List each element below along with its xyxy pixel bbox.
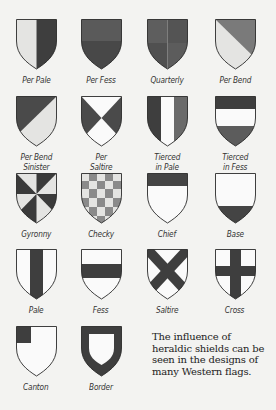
label-line: Canton (23, 383, 48, 392)
label-line: Per Fess (86, 76, 115, 85)
label-line: Per (90, 153, 112, 163)
shield-label: Checky (88, 230, 114, 240)
shield-label: Fess (93, 306, 109, 316)
shield-base-cell: Base (205, 173, 265, 240)
label-line: in Fess (222, 163, 248, 173)
note-line: seen in the designs of (152, 354, 270, 366)
shield-border-cell: Border (71, 326, 131, 393)
label-line: Saltire (156, 306, 178, 315)
label-line: Pale (29, 306, 44, 315)
shield-tierced-in-fess-cell: Tierced in Fess (205, 96, 265, 173)
label-line: Chief (158, 230, 176, 239)
shield-per-pale-cell: Per Pale (6, 19, 66, 86)
note-line: heraldic shields can be (152, 343, 270, 355)
label-line: Sinister (20, 163, 52, 173)
shield-label: Border (89, 383, 113, 393)
label-line: Quarterly (150, 76, 183, 85)
cross-shield-icon (215, 249, 256, 300)
shield-label: Cross (225, 306, 244, 316)
label-line: Fess (93, 306, 109, 315)
shield-fess-cell: Fess (71, 249, 131, 316)
caption-note: The influence of heraldic shields can be… (152, 331, 270, 377)
shield-chief-cell: Chief (137, 173, 197, 240)
shield-label: Tierced in Pale (154, 153, 180, 173)
shield-label: Base (226, 230, 243, 240)
label-line: Tierced (154, 153, 180, 163)
shield-pale-cell: Pale (6, 249, 66, 316)
shield-label: Per Saltire (90, 153, 112, 173)
label-line: Base (226, 230, 243, 239)
shield-label: Saltire (156, 306, 178, 316)
label-line: Per Pale (22, 76, 50, 85)
shield-saltire-cell: Saltire (137, 249, 197, 316)
per-saltire-shield-icon (81, 96, 122, 147)
shield-gyronny-cell: Gyronny (6, 173, 66, 240)
shield-quarterly-cell: Quarterly (137, 19, 197, 86)
label-line: Checky (88, 230, 114, 239)
tierced-in-pale-shield-icon (147, 96, 188, 147)
note-line: many Western flags. (152, 366, 270, 378)
label-line: Per Bend (20, 153, 52, 163)
per-fess-shield-icon (81, 19, 122, 70)
label-line: Tierced (222, 153, 248, 163)
label-line: Saltire (90, 163, 112, 173)
note-line: The influence of (152, 331, 270, 343)
per-bend-sinister-shield-icon (16, 96, 57, 147)
base-shield-icon (215, 173, 256, 224)
shield-canton-cell: Canton (6, 326, 66, 393)
tierced-in-fess-shield-icon (215, 96, 256, 147)
label-line: in Pale (154, 163, 180, 173)
shield-label: Per Bend Sinister (20, 153, 52, 173)
shield-label: Tierced in Fess (222, 153, 248, 173)
shield-per-fess-cell: Per Fess (71, 19, 131, 86)
shield-per-bend-cell: Per Bend (205, 19, 265, 86)
shield-cross-cell: Cross (205, 249, 265, 316)
label-line: Cross (225, 306, 244, 315)
saltire-shield-icon (147, 249, 188, 300)
shield-label: Per Fess (86, 76, 115, 86)
shield-checky-cell: Checky (71, 173, 131, 240)
checky-shield-icon (81, 173, 122, 224)
shield-label: Quarterly (150, 76, 183, 86)
shield-label: Gyronny (21, 230, 51, 240)
gyronny-shield-icon (16, 173, 57, 224)
shield-label: Per Pale (22, 76, 50, 86)
shield-label: Canton (23, 383, 48, 393)
shield-per-saltire-cell: Per Saltire (71, 96, 131, 173)
shield-label: Per Bend (219, 76, 251, 86)
label-line: Gyronny (21, 230, 51, 239)
canton-shield-icon (16, 326, 57, 377)
shield-label: Chief (158, 230, 176, 240)
quarterly-shield-icon (147, 19, 188, 70)
border-shield-icon (81, 326, 122, 377)
pale-shield-icon (16, 249, 57, 300)
chief-shield-icon (147, 173, 188, 224)
shield-per-bend-sinister-cell: Per Bend Sinister (6, 96, 66, 173)
per-bend-shield-icon (215, 19, 256, 70)
shield-tierced-in-pale-cell: Tierced in Pale (137, 96, 197, 173)
fess-shield-icon (81, 249, 122, 300)
label-line: Border (89, 383, 113, 392)
per-pale-shield-icon (16, 19, 57, 70)
label-line: Per Bend (219, 76, 251, 85)
shield-label: Pale (29, 306, 44, 316)
